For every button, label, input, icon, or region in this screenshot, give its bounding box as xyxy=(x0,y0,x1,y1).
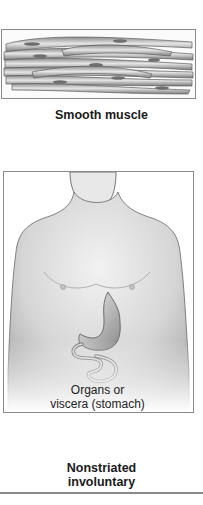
smooth-muscle-illustration-frame xyxy=(1,29,196,99)
classification-line2: involuntary xyxy=(0,475,203,489)
organ-label-line2: viscera (stomach) xyxy=(3,397,192,411)
organ-location-illustration-frame xyxy=(3,171,194,413)
torso-with-stomach-icon xyxy=(4,172,193,412)
bottom-divider xyxy=(0,492,203,494)
organ-location-label: Organs or viscera (stomach) xyxy=(3,383,192,411)
smooth-muscle-fibers-icon xyxy=(2,30,195,98)
organ-label-line1: Organs or xyxy=(3,383,192,397)
classification-line1: Nonstriated xyxy=(0,461,203,475)
classification-label: Nonstriated involuntary xyxy=(0,461,203,489)
tissue-type-label: Smooth muscle xyxy=(0,108,203,122)
